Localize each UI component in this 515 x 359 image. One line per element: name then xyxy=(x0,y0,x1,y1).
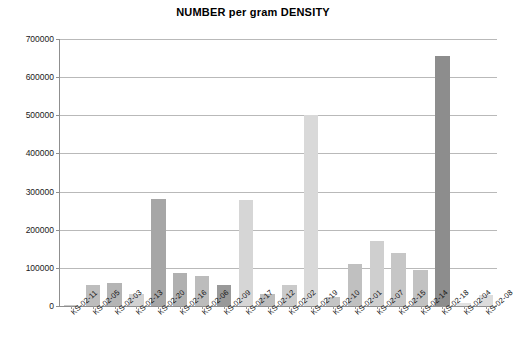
y-tick-label: 100000 xyxy=(4,263,54,273)
chart-title: NUMBER per gram DENSITY xyxy=(0,6,506,18)
y-axis-labels: 7000006000005000004000003000002000001000… xyxy=(0,0,54,359)
y-tick-label: 500000 xyxy=(4,110,54,120)
y-tick-label: 0 xyxy=(4,301,54,311)
y-tick-label: 400000 xyxy=(4,148,54,158)
x-axis-labels: KS-02-11KS-02-05KS-02-03KS-02-13KS-02-20… xyxy=(60,306,497,359)
bars-layer xyxy=(60,39,497,306)
y-tick-label: 300000 xyxy=(4,187,54,197)
y-tick-label: 600000 xyxy=(4,72,54,82)
y-tick-label: 200000 xyxy=(4,225,54,235)
y-tick-label: 700000 xyxy=(4,34,54,44)
bar[interactable] xyxy=(435,56,449,306)
bar[interactable] xyxy=(304,115,318,306)
